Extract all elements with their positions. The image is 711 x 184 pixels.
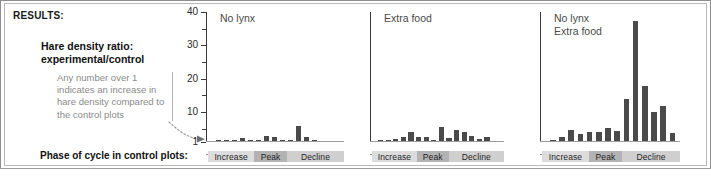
panel-y-axis — [370, 12, 371, 142]
bar — [446, 138, 451, 141]
plot-panel-2: Extra food — [370, 12, 504, 142]
hare-density-title: Hare density ratio: experimental/control — [41, 40, 191, 66]
bar — [568, 130, 574, 141]
bar — [633, 21, 639, 141]
figure-bottom-strip — [0, 168, 711, 184]
phase-segment-peak: Peak — [417, 151, 449, 162]
bar — [596, 132, 602, 141]
bar — [232, 140, 237, 141]
phase-strip-2: IncreasePeakDecline — [372, 151, 504, 162]
bar — [587, 132, 593, 141]
phase-segment-decline: Decline — [622, 151, 680, 162]
bar — [296, 126, 301, 141]
panel-baseline — [206, 141, 344, 142]
bar — [272, 137, 277, 141]
bar — [256, 140, 261, 141]
y-axis-label-1: 1 — [178, 136, 198, 147]
bar — [288, 140, 293, 141]
y-axis-label-40: 40 — [178, 6, 198, 17]
panel-title-1: No lynx — [220, 12, 255, 25]
bar — [224, 140, 229, 141]
phase-segment-increase: Increase — [208, 151, 254, 162]
panel-baseline — [370, 141, 504, 142]
y-tick-1 — [201, 142, 206, 143]
bar — [469, 136, 474, 141]
explanation-text: Any number over 1 indicates an increase … — [57, 72, 173, 121]
y-axis-label-10: 10 — [178, 106, 198, 117]
bar — [416, 137, 421, 141]
bar — [550, 140, 556, 141]
panel-y-axis — [206, 12, 207, 142]
bar — [393, 139, 398, 141]
phase-strip-1: IncreasePeakDecline — [208, 151, 344, 162]
bar — [216, 140, 221, 141]
results-label: RESULTS: — [13, 10, 64, 21]
phase-segment-decline: Decline — [449, 151, 504, 162]
bar — [386, 140, 391, 141]
bar — [439, 127, 444, 141]
phase-segment-increase: Increase — [542, 151, 589, 162]
phase-segment-increase: Increase — [372, 151, 417, 162]
bar — [408, 132, 413, 141]
bar — [248, 140, 253, 141]
bar — [378, 140, 383, 141]
bar — [624, 99, 630, 141]
bar — [477, 139, 482, 141]
bar — [484, 137, 489, 141]
bar — [454, 130, 459, 141]
bar — [605, 128, 611, 141]
bar — [614, 131, 620, 141]
bar — [401, 137, 406, 141]
bar — [462, 132, 467, 141]
bar — [240, 138, 245, 141]
bar — [264, 136, 269, 141]
phase-segment-decline: Decline — [287, 151, 344, 162]
panel-y-axis — [540, 12, 541, 142]
bar — [559, 137, 565, 141]
bar — [642, 86, 648, 141]
y-axis-label-20: 20 — [178, 73, 198, 84]
bar — [660, 106, 666, 141]
bar — [578, 134, 584, 141]
panel-title-3: No lynx Extra food — [554, 12, 602, 37]
bar — [670, 133, 676, 141]
plot-panel-3: No lynx Extra food — [540, 12, 680, 142]
phase-segment-peak: Peak — [589, 151, 622, 162]
bar — [304, 137, 309, 141]
results-figure: RESULTS: Hare density ratio: experimenta… — [0, 0, 711, 184]
bar — [651, 112, 657, 141]
phase-segment-peak: Peak — [254, 151, 287, 162]
bar — [424, 137, 429, 141]
bar — [280, 140, 285, 141]
panel-baseline — [540, 141, 680, 142]
phase-strip-3: IncreasePeakDecline — [542, 151, 680, 162]
y-axis-label-30: 30 — [178, 39, 198, 50]
panel-title-2: Extra food — [384, 12, 432, 25]
phase-of-cycle-caption: Phase of cycle in control plots: — [40, 150, 188, 161]
bar — [312, 140, 317, 141]
bar — [431, 140, 436, 141]
plot-panel-1: No lynx — [206, 12, 344, 142]
